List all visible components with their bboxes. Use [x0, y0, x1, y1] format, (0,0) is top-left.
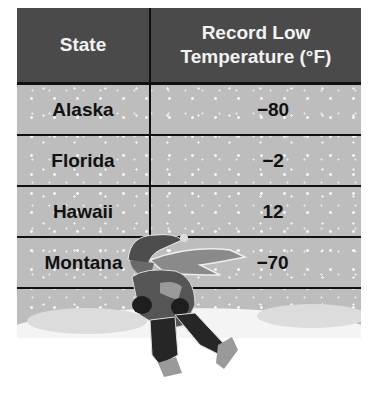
header-row: State Record Low Temperature (°F): [17, 8, 361, 84]
glove-icon: [171, 298, 189, 316]
header-temp-line1: Record Low: [202, 22, 311, 43]
cell-temperature: −80: [150, 84, 361, 136]
table-row: Alaska −80: [17, 84, 361, 136]
cell-state: Florida: [17, 135, 150, 186]
table-row: Florida −2: [17, 135, 361, 186]
header-temp-line2: Temperature (°F): [181, 46, 332, 67]
cell-temperature: −2: [150, 135, 361, 186]
header-state-label: State: [60, 34, 106, 55]
walking-person-illustration: [120, 205, 280, 385]
glove-icon: [132, 296, 152, 314]
cell-state: Alaska: [17, 84, 150, 136]
column-header-state: State: [17, 8, 150, 84]
column-header-temperature: Record Low Temperature (°F): [150, 8, 361, 84]
